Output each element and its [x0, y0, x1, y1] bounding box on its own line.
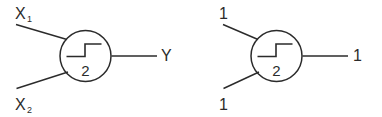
input-label-x2: X — [15, 96, 26, 113]
input-value-bottom: 1 — [219, 96, 228, 113]
input-line-x2 — [17, 72, 69, 89]
input-label-x1: X — [15, 5, 26, 22]
threshold-value: 2 — [81, 62, 89, 79]
diagram-svg: 2 X 1 X 2 Y 2 1 — [0, 0, 382, 117]
step-function-icon — [258, 44, 293, 57]
diagram-canvas: 2 X 1 X 2 Y 2 1 — [0, 0, 382, 117]
threshold-value: 2 — [272, 62, 280, 79]
step-function-icon — [67, 44, 102, 57]
input-line-bottom — [224, 72, 260, 89]
output-label-y: Y — [161, 47, 172, 64]
diagram-numeric-neuron: 2 1 1 1 — [219, 5, 362, 113]
diagram-symbolic-neuron: 2 X 1 X 2 Y — [15, 5, 172, 115]
input-line-x1 — [16, 25, 67, 40]
input-label-x1-subscript: 1 — [27, 14, 32, 24]
input-label-x2-subscript: 2 — [27, 105, 32, 115]
input-line-top — [223, 25, 258, 40]
output-value: 1 — [353, 47, 362, 64]
input-value-top: 1 — [219, 5, 228, 22]
